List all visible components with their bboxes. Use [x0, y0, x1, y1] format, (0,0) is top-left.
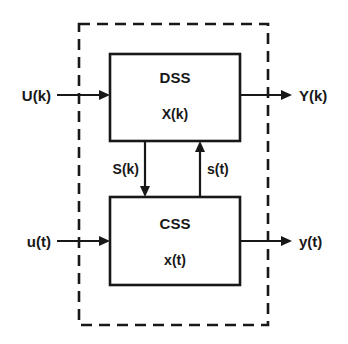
dss-block: [110, 54, 240, 141]
dss-block-title: DSS: [160, 69, 191, 86]
dss-block-state: X(k): [162, 106, 188, 122]
css-block-title: CSS: [160, 215, 191, 232]
css-to-dss-label: s(t): [207, 161, 229, 177]
output-discrete-label: Y(k): [299, 87, 327, 104]
diagram-canvas: DSS X(k) CSS x(t) U(k) Y(k) u(t) y(t) S(…: [0, 0, 348, 344]
dss-to-css-arrowhead: [140, 186, 150, 197]
output-discrete-arrowhead: [281, 90, 292, 100]
css-to-dss-arrowhead: [195, 141, 205, 152]
dss-to-css-signal-label: S(k): [113, 161, 139, 177]
block-diagram: DSS X(k) CSS x(t) U(k) Y(k) u(t) y(t) S(…: [0, 0, 348, 344]
output-continuous-arrowhead: [281, 236, 292, 246]
input-continuous-arrowhead: [99, 236, 110, 246]
input-continuous-label: u(t): [27, 233, 51, 250]
input-discrete-label: U(k): [22, 87, 51, 104]
output-continuous-label: y(t): [299, 233, 322, 250]
css-block-state: x(t): [164, 252, 186, 268]
input-discrete-arrowhead: [99, 90, 110, 100]
css-block: [110, 197, 240, 285]
